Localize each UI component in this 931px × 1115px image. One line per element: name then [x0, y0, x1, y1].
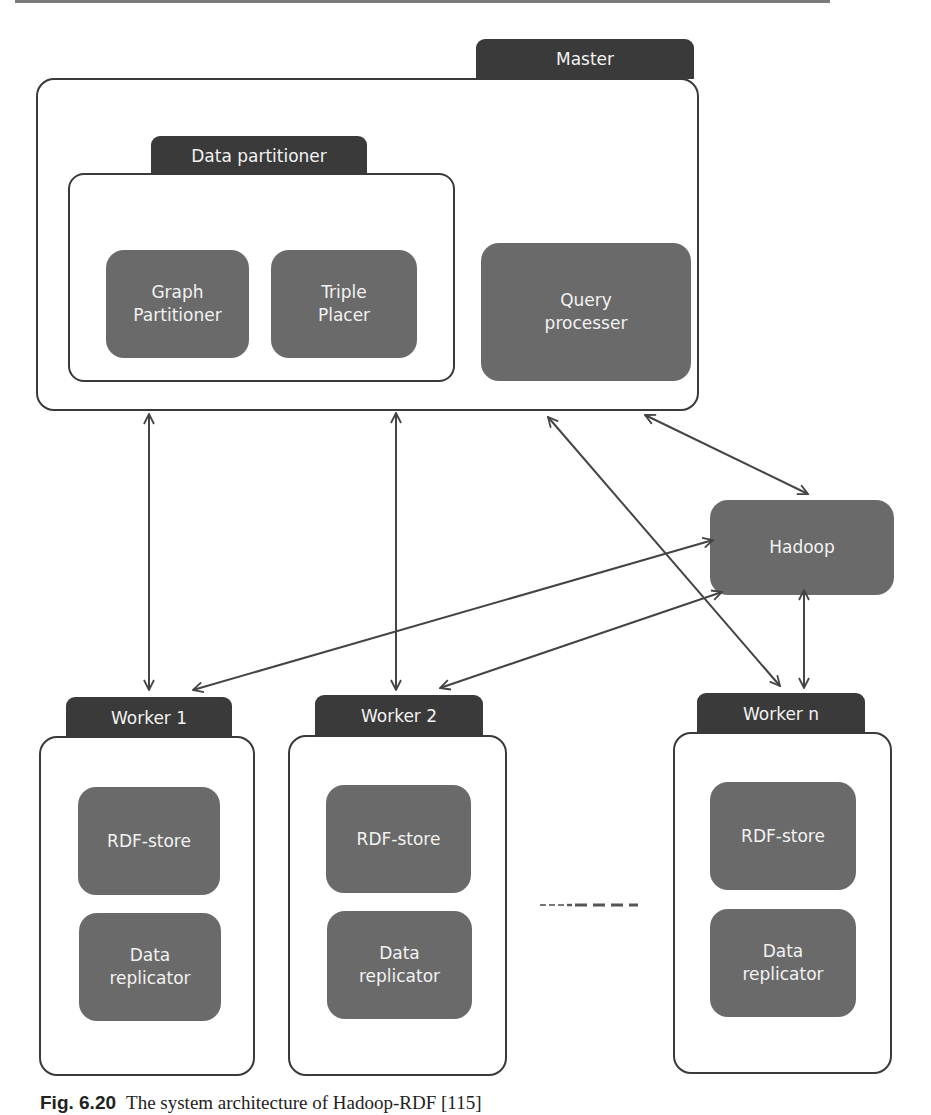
- figure-number: Fig. 6.20: [40, 1092, 116, 1113]
- figure-caption-text: The system architecture of Hadoop-RDF [1…: [126, 1092, 481, 1113]
- figure-caption: Fig. 6.20The system architecture of Hado…: [40, 1092, 481, 1114]
- arrow-master-workern: [548, 417, 780, 686]
- arrow-hadoop-worker1: [193, 540, 713, 690]
- arrow-master-hadoop: [645, 415, 808, 494]
- connection-arrows: [0, 0, 931, 1115]
